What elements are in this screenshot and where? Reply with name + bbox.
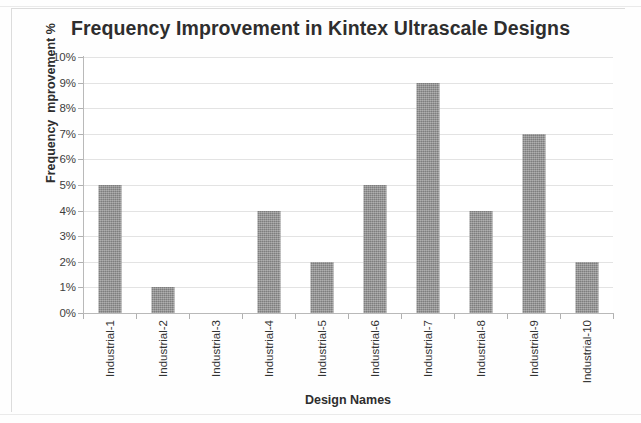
bar-slot: [295, 57, 348, 313]
y-tick-label-5pct: 5%: [42, 179, 76, 191]
y-tick-label-6pct: 6%: [42, 153, 76, 165]
y-tick-label-8pct: 8%: [42, 102, 76, 114]
x-tick: [613, 314, 614, 319]
scan-artifact-line-top: [0, 6, 641, 7]
bar-slot: [507, 57, 560, 313]
x-tick: [83, 314, 84, 319]
bar: [98, 185, 121, 313]
bar: [575, 262, 598, 313]
x-tick-label: Industrial-9: [528, 320, 540, 377]
x-tick-label: Industrial-2: [157, 320, 169, 377]
x-label-slot: Industrial-3: [189, 320, 242, 390]
bar: [363, 185, 386, 313]
x-axis-ticks: [83, 314, 613, 319]
x-tick-label: Industrial-10: [581, 320, 593, 383]
x-label-slot: Industrial-10: [560, 320, 613, 390]
x-axis-category-labels: Industrial-1Industrial-2Industrial-3Indu…: [83, 320, 613, 390]
bar-slot: [401, 57, 454, 313]
y-tick-label-2pct: 2%: [42, 256, 76, 268]
x-tick: [242, 314, 243, 319]
x-label-slot: Industrial-9: [507, 320, 560, 390]
y-tick-label-1pct: 1%: [42, 281, 76, 293]
scan-artifact-line-bottom: [0, 414, 641, 415]
x-tick-label: Industrial-5: [316, 320, 328, 377]
y-tick-label-10pct: 10%: [42, 51, 76, 63]
x-label-slot: Industrial-2: [136, 320, 189, 390]
y-tick-label-0pct: 0%: [42, 307, 76, 319]
bar-slot: [136, 57, 189, 313]
x-tick-label: Industrial-7: [422, 320, 434, 377]
bar: [310, 262, 333, 313]
y-axis-tick-labels: 0%1%2%3%4%5%6%7%8%9%10%: [38, 57, 76, 313]
chart-title: Frequency Improvement in Kintex Ultrasca…: [0, 17, 641, 40]
bar-slot: [560, 57, 613, 313]
x-tick: [560, 314, 561, 319]
x-label-slot: Industrial-6: [348, 320, 401, 390]
x-label-slot: Industrial-8: [454, 320, 507, 390]
bar-slot: [189, 57, 242, 313]
y-tick-label-3pct: 3%: [42, 230, 76, 242]
x-label-slot: Industrial-4: [242, 320, 295, 390]
bar-slot: [83, 57, 136, 313]
x-tick-label: Industrial-4: [263, 320, 275, 377]
bar-slot: [348, 57, 401, 313]
bar: [257, 211, 280, 313]
x-tick: [507, 314, 508, 319]
x-tick-label: Industrial-3: [210, 320, 222, 377]
bar: [416, 83, 439, 313]
y-axis-line: [83, 56, 84, 314]
y-tick-label-7pct: 7%: [42, 128, 76, 140]
x-tick: [136, 314, 137, 319]
x-tick: [454, 314, 455, 319]
bar: [522, 134, 545, 313]
bar-slot: [454, 57, 507, 313]
x-label-slot: Industrial-5: [295, 320, 348, 390]
x-label-slot: Industrial-1: [83, 320, 136, 390]
bar-slot: [242, 57, 295, 313]
x-tick: [348, 314, 349, 319]
x-tick: [189, 314, 190, 319]
x-axis-title: Design Names: [83, 393, 613, 407]
y-tick-label-9pct: 9%: [42, 77, 76, 89]
x-tick-label: Industrial-1: [104, 320, 116, 377]
x-tick-label: Industrial-8: [475, 320, 487, 377]
x-label-slot: Industrial-7: [401, 320, 454, 390]
y-tick-label-4pct: 4%: [42, 205, 76, 217]
x-tick: [401, 314, 402, 319]
x-tick: [295, 314, 296, 319]
bar: [469, 211, 492, 313]
scanned-page: Frequency Improvement in Kintex Ultrasca…: [0, 0, 641, 423]
x-tick-label: Industrial-6: [369, 320, 381, 377]
plot-area: [83, 57, 613, 313]
bar: [151, 287, 174, 313]
